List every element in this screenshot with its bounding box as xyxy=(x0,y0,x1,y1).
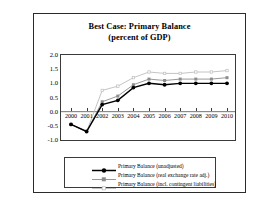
x-axis-tick-label: 2009 xyxy=(205,113,217,119)
series-marker xyxy=(148,71,150,73)
x-axis-tick-mark xyxy=(133,108,134,111)
series-marker xyxy=(226,69,228,71)
plot-area: 2.01.51.00.50.0-0.5-1.0 2000200120022003… xyxy=(34,48,247,148)
x-axis-tick-label: 2000 xyxy=(65,113,77,119)
series-lines xyxy=(61,55,235,140)
legend-label-series-1: Primary Balance (real exchange rate adj.… xyxy=(116,172,209,178)
legend-swatch-graphic xyxy=(92,184,116,193)
y-axis-tick-label: 1.0 xyxy=(34,79,58,86)
series-marker xyxy=(132,86,136,90)
y-axis-tick-label: -0.5 xyxy=(34,121,58,128)
x-axis-tick-mark xyxy=(180,108,181,111)
x-axis-tick-label: 2006 xyxy=(159,113,171,119)
series-marker xyxy=(163,83,167,87)
series-marker xyxy=(100,103,104,107)
series-marker xyxy=(147,81,151,85)
legend-item: Primary Balance (real exchange rate adj.… xyxy=(65,170,215,179)
legend-swatch-series-2 xyxy=(92,179,116,188)
x-axis-tick-label: 2008 xyxy=(190,113,202,119)
x-axis-tick-label: 2004 xyxy=(127,113,139,119)
x-axis-tick-label: 2001 xyxy=(81,113,93,119)
series-marker xyxy=(179,72,181,74)
series-marker xyxy=(210,81,214,85)
x-axis-tick-mark xyxy=(118,108,119,111)
series-marker xyxy=(210,78,213,81)
legend-label-series-0: Primary Balance (unadjusted) xyxy=(116,163,184,169)
x-axis-tick-label: 2005 xyxy=(143,113,155,119)
series-marker xyxy=(194,78,197,81)
chart-legend: Primary Balance (unadjusted) Primary Bal… xyxy=(64,157,216,188)
series-marker xyxy=(116,98,120,102)
x-axis-tick-mark xyxy=(227,108,228,111)
series-marker xyxy=(163,79,166,82)
legend-label-series-2: Primary Balance (incl. contingent liabil… xyxy=(116,181,216,187)
series-marker xyxy=(148,78,151,81)
x-axis-tick-label: 2003 xyxy=(112,113,124,119)
x-axis-tick-mark xyxy=(165,108,166,111)
series-marker xyxy=(194,81,198,85)
series-marker xyxy=(132,76,134,78)
series-marker xyxy=(178,81,182,85)
series-marker xyxy=(225,81,229,85)
x-axis-tick-mark xyxy=(102,108,103,111)
series-marker xyxy=(195,71,197,73)
legend-swatch-series-1 xyxy=(92,170,116,179)
legend-item: Primary Balance (incl. contingent liabil… xyxy=(65,179,215,188)
legend-item: Primary Balance (unadjusted) xyxy=(65,161,215,170)
plot-frame xyxy=(60,54,236,141)
x-axis-tick-label: 2002 xyxy=(96,113,108,119)
y-axis-tick-label: 0.0 xyxy=(34,107,58,114)
chart-figure: Best Case: Primary Balance (percent of G… xyxy=(33,13,246,193)
series-marker xyxy=(117,85,119,87)
series-marker xyxy=(210,71,212,73)
x-axis-tick-label: 2010 xyxy=(221,113,233,119)
y-axis-tick-label: -1.0 xyxy=(34,136,58,143)
y-axis-tick-label: 1.5 xyxy=(34,65,58,72)
legend-swatch-series-0 xyxy=(92,161,116,170)
series-marker xyxy=(163,72,165,74)
series-marker xyxy=(116,95,119,98)
series-line xyxy=(71,78,227,132)
series-marker xyxy=(85,130,89,134)
chart-title-line-2: (percent of GDP) xyxy=(34,32,245,43)
series-marker xyxy=(101,89,103,91)
x-axis-tick-mark xyxy=(149,108,150,111)
y-axis-tick-label: 0.5 xyxy=(34,93,58,100)
x-axis-tick-mark xyxy=(87,108,88,111)
x-axis-tick-mark xyxy=(71,108,72,111)
series-marker xyxy=(69,123,73,127)
chart-title-line-1: Best Case: Primary Balance xyxy=(34,21,245,32)
series-marker xyxy=(226,76,229,79)
chart-title: Best Case: Primary Balance (percent of G… xyxy=(34,14,245,43)
series-marker xyxy=(179,78,182,81)
x-axis-tick-label: 2007 xyxy=(174,113,186,119)
x-axis-tick-mark xyxy=(196,108,197,111)
x-axis-tick-mark xyxy=(211,108,212,111)
y-axis-tick-label: 2.0 xyxy=(34,51,58,58)
